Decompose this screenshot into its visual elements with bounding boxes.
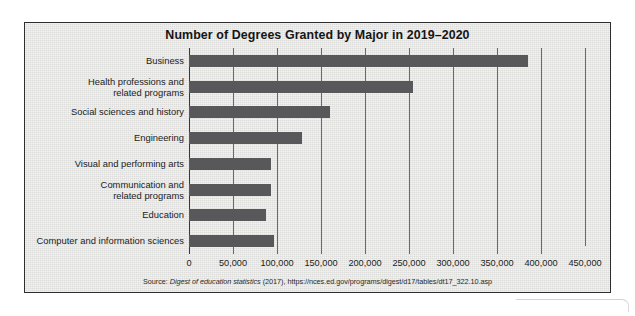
category-label: Visual and performing arts (75, 158, 184, 170)
bar-visual-performing-arts (189, 158, 271, 170)
bar-row: Social sciences and history (189, 100, 585, 126)
bar-row: Business (189, 48, 585, 74)
bar-row: Education (189, 203, 585, 229)
bar-row: Computer and information sciences (189, 228, 585, 254)
xtick-label: 450,000 (568, 258, 601, 268)
chart-title: Number of Degrees Granted by Major in 20… (25, 28, 610, 42)
bar-social-sciences (189, 106, 330, 118)
category-label: Education (142, 210, 184, 222)
xtick-label: 100,000 (260, 258, 293, 268)
xtick-label: 150,000 (304, 258, 337, 268)
xtick-label: 400,000 (524, 258, 557, 268)
xtick-label: 250,000 (392, 258, 425, 268)
category-label: Computer and information sciences (37, 235, 184, 247)
category-label: Communication and related programs (101, 178, 184, 201)
bar-health-professions (189, 81, 413, 93)
plot-area: Business Health professions and related … (189, 48, 585, 254)
bar-row: Visual and performing arts (189, 151, 585, 177)
source-url[interactable]: https://nces.ed.gov/programs/digest/d17/… (287, 277, 492, 286)
xtick-label: 350,000 (480, 258, 513, 268)
bar-row: Engineering (189, 125, 585, 151)
category-label: Business (146, 55, 184, 67)
bar-engineering (189, 132, 302, 144)
xtick-label: 50,000 (219, 258, 247, 268)
category-label: Social sciences and history (71, 107, 184, 119)
source-year: (2017), (263, 277, 286, 286)
bar-computer-sciences (189, 235, 274, 247)
bar-row: Health professions and related programs (189, 74, 585, 100)
scan-edge-artifact (516, 299, 629, 312)
source-title: Digest of education statistics (170, 277, 261, 286)
xtick-label: 200,000 (348, 258, 381, 268)
xtick-label: 300,000 (436, 258, 469, 268)
gridline-450000 (585, 48, 586, 246)
bar-row: Communication and related programs (189, 177, 585, 203)
xtick-label: 0 (186, 258, 191, 268)
chart-figure: Number of Degrees Granted by Major in 20… (24, 22, 611, 293)
bar-education (189, 209, 266, 221)
category-label: Engineering (134, 132, 184, 144)
source-note: Source: Digest of education statistics (… (25, 277, 610, 286)
bar-communication (189, 184, 271, 196)
source-prefix: Source: (143, 277, 168, 286)
bar-business (189, 55, 528, 67)
category-label: Health professions and related programs (88, 75, 184, 98)
